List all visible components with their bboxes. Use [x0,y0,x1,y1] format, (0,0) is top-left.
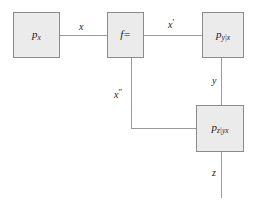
node-p-x-subscript: x [38,33,41,42]
node-p-z-given-yx[interactable]: pz|yx [196,105,244,152]
node-f-equals-label: f= [120,29,130,42]
node-p-y-given-x-subscript: y|x [221,33,230,42]
node-p-x-label: px [32,29,41,42]
node-p-y-given-x-label: py|x [216,29,230,42]
edge-label-x-double-prime: x″ [114,88,123,100]
node-p-y-given-x[interactable]: py|x [202,12,244,58]
edge-label-x-double-prime-mark: ″ [118,87,122,97]
node-p-z-given-yx-label: pz|yx [211,122,228,135]
edge-label-x-prime: x′ [168,18,175,30]
edge-label-x-prime-mark: ′ [172,17,174,27]
edge-label-y: y [212,74,216,86]
node-p-z-given-yx-subscript: z|yx [217,126,229,135]
diagram-canvas: px f= py|x pz|yx x x′ x″ y z [0,0,255,204]
edge-label-x: x [79,20,83,32]
node-f-equals[interactable]: f= [107,12,144,58]
edge-line-x-double-prime [131,58,196,128]
node-p-x[interactable]: px [13,12,60,58]
edge-label-z: z [212,166,216,178]
